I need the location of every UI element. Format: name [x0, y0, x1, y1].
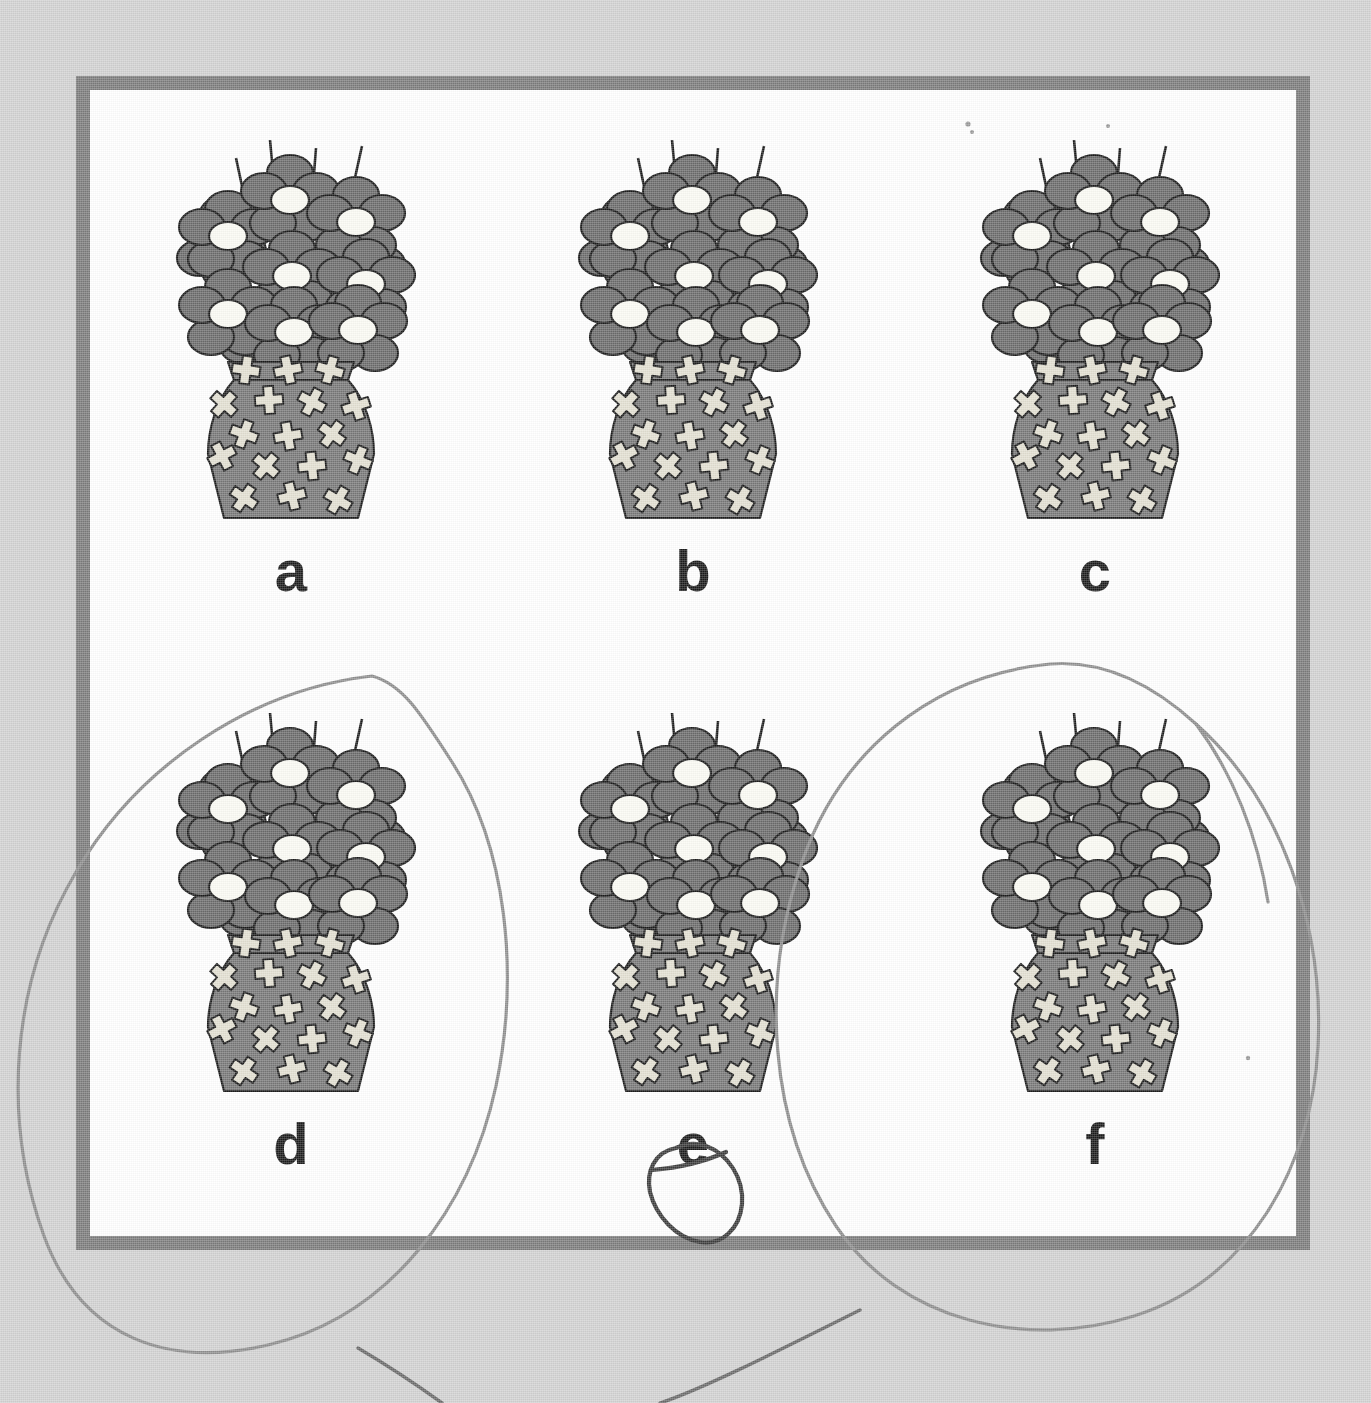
grid-cell-f[interactable]: f: [894, 663, 1296, 1236]
grid-cell-c[interactable]: c: [894, 90, 1296, 663]
flower-vase-icon: [568, 118, 818, 558]
grid-cell-d[interactable]: d: [90, 663, 492, 1236]
flower-vase-icon: [970, 118, 1220, 558]
flower-vase-icon: [970, 691, 1220, 1131]
picture-grid: a b c: [90, 90, 1296, 1236]
stray-mark-lower-left: [358, 1348, 442, 1403]
grid-cell-a[interactable]: a: [90, 90, 492, 663]
item-label-c: c: [894, 542, 1296, 600]
answer-card-frame: a b c: [76, 76, 1310, 1250]
flower-vase-icon: [166, 118, 416, 558]
stray-mark-lower-right: [660, 1310, 860, 1403]
grid-cell-b[interactable]: b: [492, 90, 894, 663]
item-label-a: a: [90, 542, 492, 600]
worksheet-page: a b c: [0, 0, 1371, 1403]
item-label-d: d: [90, 1115, 492, 1173]
grid-cell-e[interactable]: e: [492, 663, 894, 1236]
flower-vase-icon: [166, 691, 416, 1131]
item-label-f: f: [894, 1115, 1296, 1173]
item-label-b: b: [492, 542, 894, 600]
item-label-e: e: [492, 1115, 894, 1173]
flower-vase-icon: [568, 691, 818, 1131]
